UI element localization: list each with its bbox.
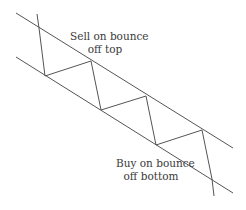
buy-annotation-line2: off bottom [116,170,186,183]
sell-annotation-line2: off top [70,43,140,56]
sell-annotation: Sell on bounce off top [70,30,140,56]
sell-annotation-line1: Sell on bounce [70,30,140,43]
buy-annotation: Buy on bounce off bottom [116,157,186,183]
buy-annotation-line1: Buy on bounce [116,157,186,170]
